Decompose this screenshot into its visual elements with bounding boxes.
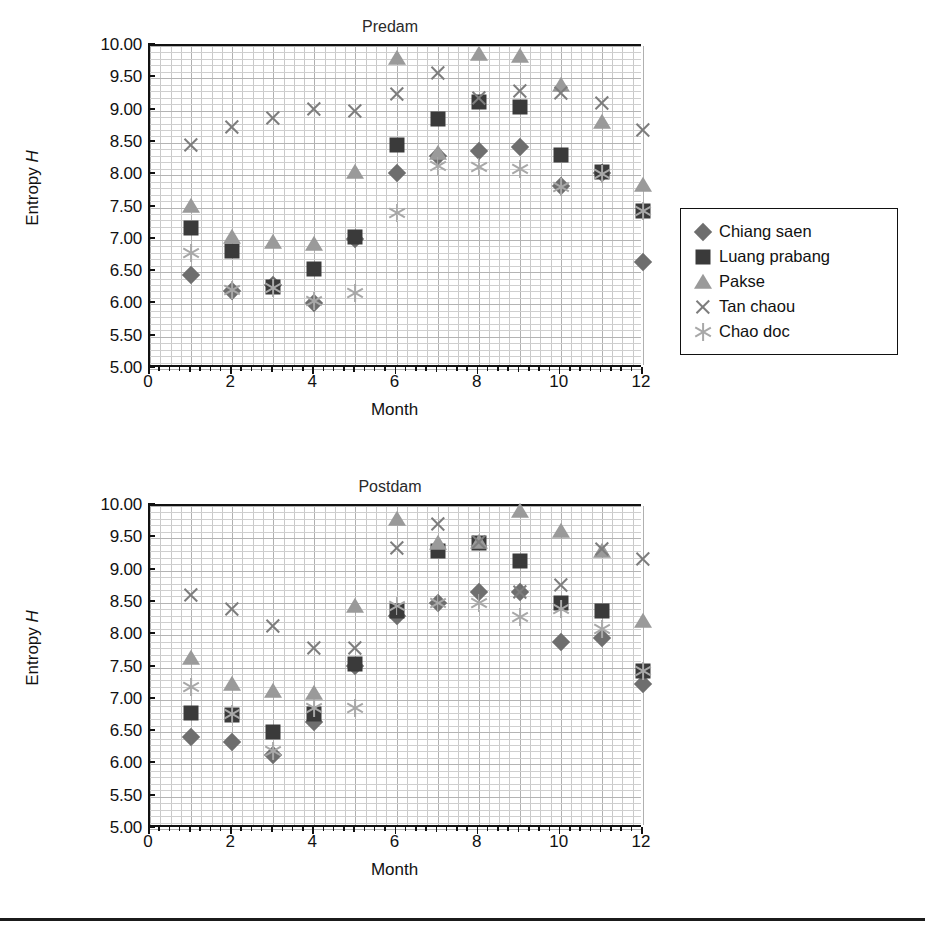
datapoint-star: [429, 594, 447, 612]
gridline-vertical-minor: [489, 506, 490, 825]
y-axis-tick-label: 8.50: [52, 592, 142, 609]
y-axis-tick-label: 7.00: [52, 689, 142, 706]
x-axis-tickmark: [353, 367, 355, 372]
x-axis-tickmark-minor: [405, 367, 407, 371]
x-axis-tickmark-minor: [446, 827, 448, 831]
x-axis-tick-label: 10: [539, 373, 579, 391]
x-axis-tickmark-minor: [302, 827, 304, 831]
x-axis-title-postdam: Month: [148, 860, 641, 880]
datapoint-square: [184, 705, 199, 720]
datapoint-diamond: [182, 266, 200, 284]
x-axis-tickmark: [230, 367, 232, 374]
datapoint-triangle: [470, 46, 488, 61]
x-axis-tickmark-minor: [343, 827, 345, 831]
x-axis-tickmark-minor: [456, 367, 458, 371]
datapoint-square: [225, 244, 240, 259]
gridline-vertical-minor: [530, 506, 531, 825]
legend-marker-x-icon: [691, 296, 715, 318]
x-axis-tickmark-minor: [384, 367, 386, 371]
gridline-vertical-major: [314, 46, 315, 365]
gridline-horizontal-minor: [150, 751, 641, 752]
gridline-horizontal-minor: [150, 803, 641, 804]
x-axis-tickmark-minor: [569, 367, 571, 371]
gridline-vertical-minor: [201, 506, 202, 825]
datapoint-triangle: [305, 236, 323, 251]
x-axis-tickmark: [600, 827, 602, 832]
x-axis-tickmark-minor: [179, 827, 181, 831]
x-axis-tick-label: 12: [621, 833, 661, 851]
gridline-horizontal-minor: [150, 266, 641, 267]
x-axis-tickmark-minor: [620, 827, 622, 831]
y-axis-tick-label: 9.00: [52, 100, 142, 117]
y-axis-tickmark: [148, 568, 155, 570]
gridline-horizontal-minor: [150, 564, 641, 565]
gridline-horizontal-major: [150, 668, 641, 669]
datapoint-star: [511, 160, 529, 178]
gridline-horizontal-major: [150, 571, 641, 572]
gridline-horizontal-major: [150, 732, 641, 733]
y-axis-tick-label: 9.50: [52, 68, 142, 85]
x-axis-tick-label: 4: [292, 833, 332, 851]
gridline-horizontal-minor: [150, 311, 641, 312]
gridline-horizontal-major: [150, 111, 641, 112]
gridline-vertical-minor: [407, 506, 408, 825]
gridline-vertical-minor: [160, 46, 161, 365]
y-axis-title-postdam: Entropy H: [23, 553, 43, 743]
x-axis-tickmark: [395, 367, 397, 374]
y-axis-tickmark: [148, 108, 155, 110]
gridline-vertical-minor: [253, 46, 254, 365]
gridline-horizontal-major: [150, 337, 641, 338]
x-axis-tickmark-minor: [497, 367, 499, 371]
gridline-horizontal-minor: [150, 317, 641, 318]
gridline-vertical-minor: [345, 46, 346, 365]
datapoint-x: [470, 533, 488, 551]
datapoint-x: [223, 118, 241, 136]
gridline-vertical-minor: [171, 46, 172, 365]
gridline-horizontal-minor: [150, 259, 641, 260]
gridline-vertical-minor: [325, 506, 326, 825]
x-axis-tick-label: 4: [292, 373, 332, 391]
x-axis-tickmark-minor: [251, 367, 253, 371]
y-axis-tick-label: 8.00: [52, 625, 142, 642]
gridline-vertical-minor: [417, 506, 418, 825]
datapoint-x: [388, 539, 406, 557]
y-axis-tickmark: [148, 535, 155, 537]
gridline-vertical-minor: [222, 46, 223, 365]
gridline-horizontal-minor: [150, 343, 641, 344]
x-axis-tickmark-minor: [199, 367, 201, 371]
x-axis-tick-label: 12: [621, 373, 661, 391]
datapoint-star: [634, 662, 652, 680]
gridline-horizontal-minor: [150, 810, 641, 811]
gridline-vertical-minor: [530, 46, 531, 365]
x-axis-tickmark: [230, 827, 232, 834]
datapoint-star: [388, 597, 406, 615]
y-axis-tickmark: [148, 729, 155, 731]
x-axis-tickmark-minor: [631, 827, 633, 831]
y-axis-tick-label: 6.00: [52, 754, 142, 771]
x-axis-tickmark-minor: [199, 827, 201, 831]
x-axis-tickmark: [189, 367, 191, 372]
gridline-vertical-minor: [263, 506, 264, 825]
datapoint-diamond: [634, 253, 652, 271]
x-axis-tickmark-minor: [579, 827, 581, 831]
gridline-vertical-minor: [242, 506, 243, 825]
x-axis-tickmark-minor: [620, 367, 622, 371]
gridline-horizontal-minor: [150, 104, 641, 105]
datapoint-x: [634, 550, 652, 568]
x-axis-ticklabels-postdam: 024681012: [148, 833, 641, 859]
legend-marker-square-icon: [691, 246, 715, 268]
x-axis-tickmark-minor: [282, 827, 284, 831]
datapoint-square: [594, 603, 609, 618]
y-axis-tickmark: [148, 237, 155, 239]
datapoint-square: [512, 100, 527, 115]
gridline-horizontal-minor: [150, 661, 641, 662]
gridline-horizontal-minor: [150, 816, 641, 817]
legend-marker-triangle-icon: [691, 271, 715, 293]
gridline-vertical-minor: [540, 46, 541, 365]
gridline-vertical-minor: [171, 506, 172, 825]
x-axis-tick-label: 2: [210, 833, 250, 851]
x-axis-tickmark-minor: [364, 827, 366, 831]
gridline-vertical-minor: [448, 506, 449, 825]
y-axis-tick-label: 6.50: [52, 262, 142, 279]
y-axis-tickmark: [148, 43, 155, 45]
